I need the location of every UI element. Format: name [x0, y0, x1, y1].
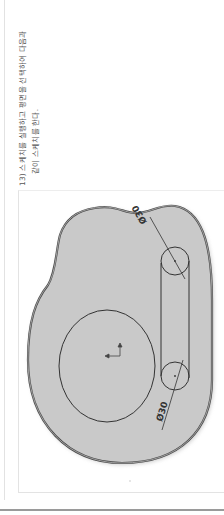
sketch-figure: Ø30 Ø30 [0, 0, 224, 515]
page-bottom-rule [0, 509, 224, 511]
slot-center-bottom [174, 375, 176, 377]
sketch-profile [28, 206, 212, 463]
stray-dot [129, 480, 130, 481]
